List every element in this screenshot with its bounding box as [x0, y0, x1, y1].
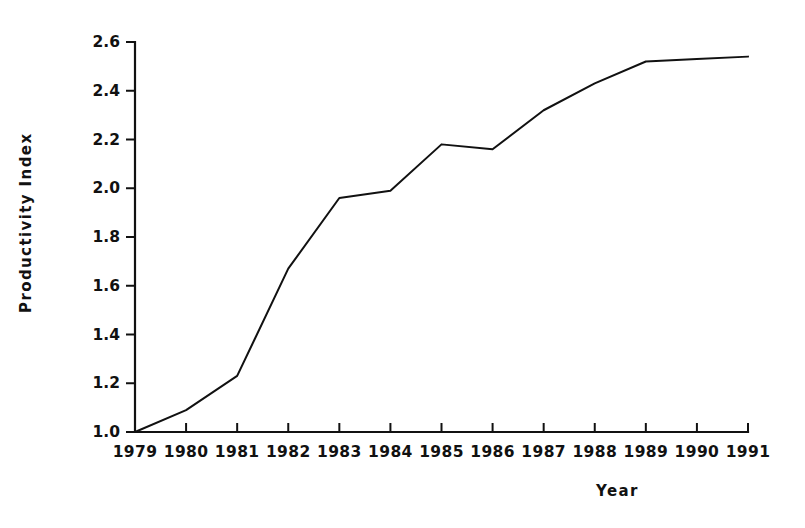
axis-spines: [135, 42, 748, 432]
productivity-index-line: [135, 57, 748, 432]
y-axis-ticks: [126, 42, 135, 432]
x-axis-ticks: [135, 423, 748, 432]
plot-area: [0, 0, 805, 528]
line-chart-figure: Productivity Index Year 2.62.42.22.01.81…: [0, 0, 805, 528]
